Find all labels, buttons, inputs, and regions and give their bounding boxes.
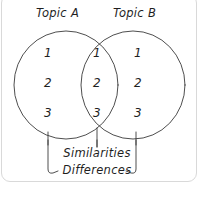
overlap-item-1: 1 [89, 47, 105, 59]
topic-b-label: Topic B [113, 8, 156, 20]
right-item-1: 1 [130, 47, 146, 59]
differences-label: Differences [58, 165, 136, 177]
left-bracket-arm [48, 140, 58, 173]
venn-diagram-canvas: Topic A Topic B 1 2 3 1 2 3 1 2 3 Simila… [0, 0, 204, 199]
right-item-2: 2 [130, 77, 146, 89]
similarities-label: Similarities [58, 148, 136, 160]
left-item-3: 3 [40, 107, 56, 119]
overlap-item-3: 3 [89, 107, 105, 119]
right-item-3: 3 [130, 107, 146, 119]
topic-a-label: Topic A [36, 8, 79, 20]
overlap-item-2: 2 [89, 77, 105, 89]
left-item-2: 2 [40, 77, 56, 89]
left-item-1: 1 [40, 47, 56, 59]
